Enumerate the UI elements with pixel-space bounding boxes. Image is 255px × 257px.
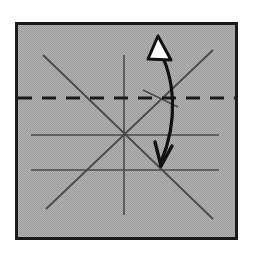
- origami-diagram: [0, 0, 255, 257]
- figure-root: Origami crease pattern with fold-and-unf…: [0, 0, 255, 257]
